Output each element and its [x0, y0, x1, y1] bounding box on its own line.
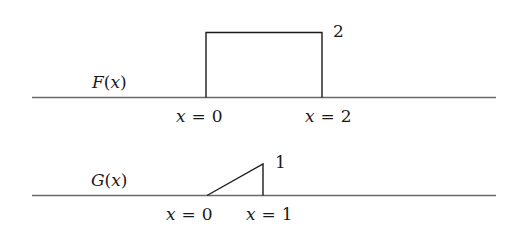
f-x-label-2: x=2 [305, 106, 352, 126]
panel-f: F(x) 2 x=0 x=2 [32, 21, 496, 126]
function-diagram: F(x) 2 x=0 x=2 G(x) 1 x=0 x=1 [0, 0, 521, 235]
g-triangle-ramp [207, 164, 263, 196]
f-function-label: F(x) [91, 72, 127, 92]
panel-g: G(x) 1 x=0 x=1 [32, 152, 496, 224]
f-x-label-0: x=0 [176, 106, 223, 126]
g-x-label-0: x=0 [166, 204, 213, 224]
g-height-label: 1 [275, 152, 286, 172]
f-height-label: 2 [333, 21, 344, 41]
f-rectangle-pulse [206, 33, 322, 98]
g-x-label-1: x=1 [246, 204, 293, 224]
g-function-label: G(x) [91, 170, 127, 190]
